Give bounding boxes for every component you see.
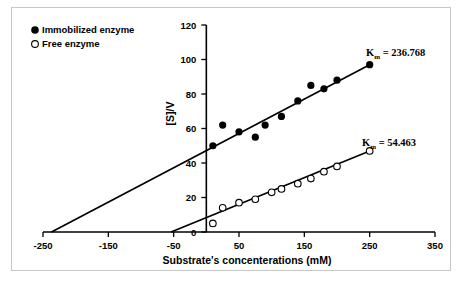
- data-point-immobilized: [262, 121, 269, 128]
- data-point-immobilized: [235, 128, 242, 135]
- x-tick-label: 250: [362, 240, 378, 251]
- y-tick-label: 100: [180, 54, 196, 65]
- y-tick-label: 80: [186, 89, 197, 100]
- data-point-immobilized: [278, 113, 285, 120]
- y-tick-label: 60: [186, 123, 197, 134]
- data-point-free: [295, 180, 302, 187]
- data-point-immobilized: [307, 82, 314, 89]
- x-axis-title: Substrate's concenterations (mM): [163, 254, 332, 266]
- x-tick-label: 50: [234, 240, 245, 251]
- y-tick-label: 0: [191, 227, 196, 238]
- data-point-free: [268, 189, 275, 196]
- hanes-woolf-plot-figure: -250-150-5050150250350020406080100120Sub…: [0, 0, 462, 282]
- x-tick-label: 150: [296, 240, 312, 251]
- km-annotation-free: Km = 54.463: [362, 137, 416, 151]
- data-point-free: [278, 186, 285, 193]
- legend-label-immobilized: Immobilized enzyme: [42, 24, 134, 35]
- y-axis-title: [S]/V: [164, 102, 176, 126]
- chart-canvas: -250-150-5050150250350020406080100120Sub…: [0, 0, 462, 282]
- data-point-immobilized: [320, 85, 327, 92]
- data-point-immobilized: [219, 121, 226, 128]
- legend-marker-immobilized: [31, 26, 39, 34]
- data-point-immobilized: [333, 77, 340, 84]
- data-point-immobilized: [294, 97, 301, 104]
- data-point-free: [308, 175, 315, 182]
- km-annotation-immobilized: Km = 236.768: [366, 47, 425, 61]
- legend-label-free: Free enzyme: [42, 38, 100, 49]
- legend-marker-free: [32, 41, 39, 48]
- data-point-free: [219, 205, 226, 212]
- data-point-free: [321, 168, 328, 175]
- data-point-free: [334, 163, 341, 170]
- y-tick-label: 120: [180, 20, 196, 31]
- data-point-immobilized: [252, 134, 259, 141]
- x-tick-label: -250: [33, 240, 52, 251]
- data-point-free: [252, 196, 259, 203]
- x-tick-label: -50: [167, 240, 181, 251]
- data-point-free: [236, 199, 243, 206]
- x-tick-label: -150: [99, 240, 118, 251]
- x-tick-label: 350: [427, 240, 443, 251]
- data-point-immobilized: [366, 61, 373, 68]
- data-point-free: [210, 220, 217, 227]
- y-tick-label: 20: [186, 192, 197, 203]
- data-point-immobilized: [209, 142, 216, 149]
